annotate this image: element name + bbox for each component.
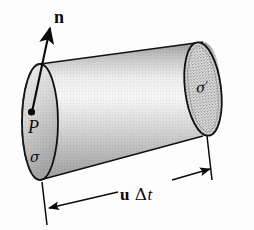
dimension-segment-right — [172, 169, 210, 180]
dimension-segment-left — [49, 192, 118, 208]
length-label: u Δt — [120, 186, 153, 203]
point-p-marker — [28, 108, 35, 115]
length-label-delta: Δ — [135, 184, 148, 204]
length-label-t: t — [148, 185, 153, 204]
length-label-u: u — [120, 185, 130, 204]
dimension-extension-left — [42, 182, 47, 225]
far-face-label: σ′ — [195, 79, 209, 94]
normal-vector-label: n — [54, 8, 64, 26]
near-face-label: σ — [30, 150, 40, 164]
dimension-extension-right — [207, 136, 212, 180]
point-p-label: P — [28, 118, 39, 136]
figure-container: n P σ σ′ u Δt — [0, 0, 254, 230]
